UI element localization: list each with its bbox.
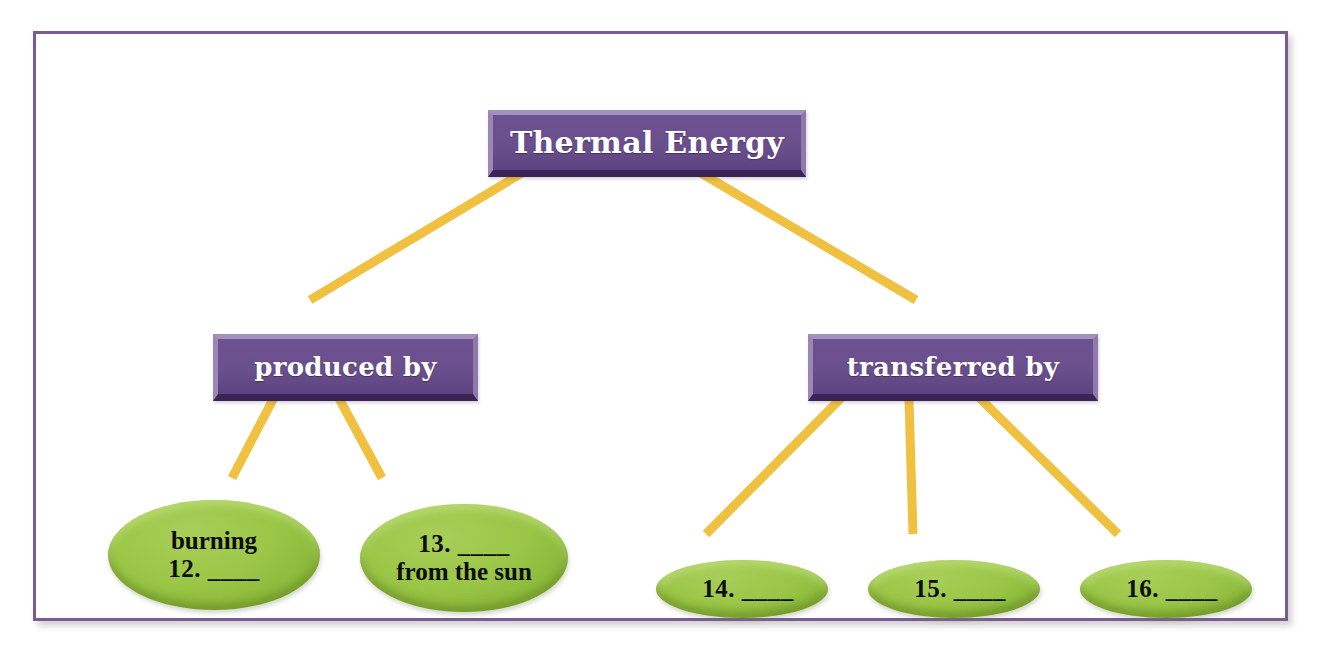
node-burning-12[interactable]: burning 12. ____ — [108, 500, 320, 610]
concept-map-page: Thermal Energy produced by transferred b… — [0, 0, 1318, 650]
node-13-from-the-sun-line2: from the sun — [396, 558, 532, 587]
node-14[interactable]: 14. ____ — [656, 560, 828, 618]
node-transferred-by-label: transferred by — [847, 354, 1059, 380]
node-15[interactable]: 15. ____ — [868, 560, 1040, 618]
node-16[interactable]: 16. ____ — [1080, 560, 1252, 618]
node-burning-12-line2: 12. ____ — [168, 555, 260, 584]
node-14-label: 14. ____ — [702, 575, 794, 604]
node-produced-by-label: produced by — [254, 354, 437, 380]
node-thermal-energy-label: Thermal Energy — [510, 128, 784, 158]
node-16-label: 16. ____ — [1126, 575, 1218, 604]
node-15-label: 15. ____ — [914, 575, 1006, 604]
node-thermal-energy[interactable]: Thermal Energy — [488, 110, 806, 177]
node-produced-by[interactable]: produced by — [213, 334, 478, 401]
diagram-frame: Thermal Energy produced by transferred b… — [33, 31, 1288, 621]
node-13-from-the-sun-line1: 13. ____ — [418, 530, 510, 559]
node-burning-12-line1: burning — [171, 527, 257, 556]
node-13-from-the-sun[interactable]: 13. ____ from the sun — [360, 504, 568, 612]
node-transferred-by[interactable]: transferred by — [808, 334, 1098, 401]
